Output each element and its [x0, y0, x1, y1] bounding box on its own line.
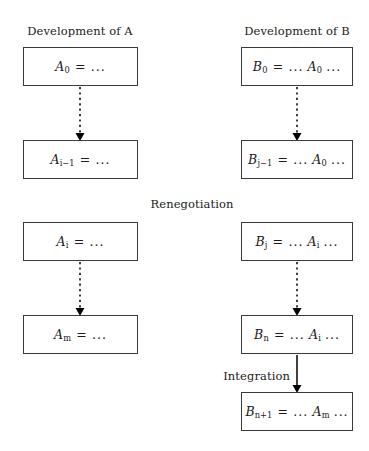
stage-label-renegotiation: Renegotiation [132, 197, 252, 211]
node-box-bj-minus-1: Bj−1 = ... A0 ... [241, 140, 353, 179]
column-title-b: Development of B [217, 24, 369, 38]
stage-label-integration: Integration [196, 369, 290, 383]
node-box-bj: Bj = ... Ai ... [241, 222, 353, 261]
node-formula-bn-plus-1: Bn+1 = ... Am ... [245, 404, 348, 420]
node-box-ai-minus-1: Ai−1 = ... [23, 140, 138, 179]
node-formula-bj-minus-1: Bj−1 = ... A0 ... [248, 152, 346, 168]
node-formula-b0: B0 = ... A0 ... [253, 59, 341, 75]
node-formula-bj: Bj = ... Ai ... [255, 234, 338, 250]
node-box-bn: Bn = ... Ai ... [241, 315, 353, 354]
diagram-canvas: Development of A Development of B Renego… [0, 0, 369, 451]
node-formula-ai: Ai = ... [57, 234, 105, 250]
node-formula-ai-minus-1: Ai−1 = ... [51, 152, 111, 168]
node-box-a0: A0 = ... [23, 47, 138, 86]
node-formula-a0: A0 = ... [55, 59, 105, 75]
node-box-bn-plus-1: Bn+1 = ... Am ... [241, 392, 353, 431]
node-formula-am: Am = ... [54, 327, 107, 343]
column-title-a: Development of A [0, 24, 160, 38]
node-formula-bn: Bn = ... Ai ... [254, 327, 340, 343]
node-box-b0: B0 = ... A0 ... [241, 47, 353, 86]
node-box-ai: Ai = ... [23, 222, 138, 261]
node-box-am: Am = ... [23, 315, 138, 354]
